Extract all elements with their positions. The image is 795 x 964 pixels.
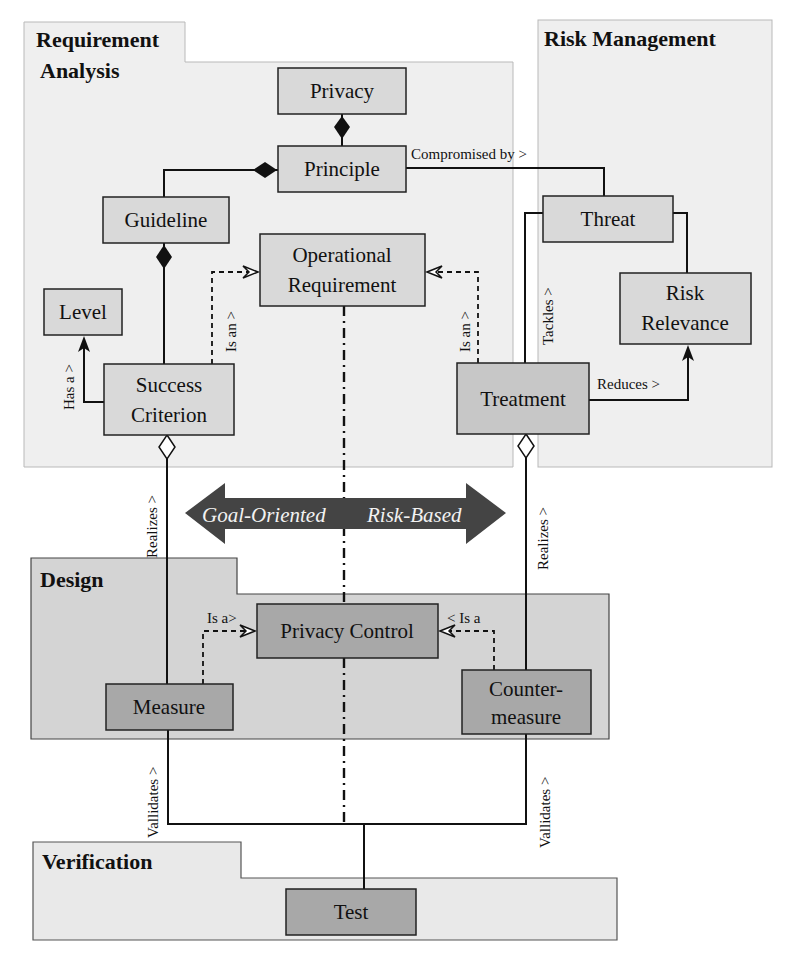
- node-label-line2: Criterion: [131, 403, 207, 427]
- package-title-requirement: Requirement: [36, 27, 160, 52]
- node-label: Privacy Control: [280, 619, 414, 643]
- edge-label-is-a-right: < Is a: [447, 610, 481, 626]
- node-label: Threat: [581, 207, 636, 231]
- node-operational-requirement[interactable]: Operational Requirement: [260, 234, 425, 306]
- node-success-criterion[interactable]: Success Criterion: [104, 364, 234, 435]
- node-label-line1: Operational: [292, 243, 391, 267]
- node-risk-relevance[interactable]: Risk Relevance: [620, 273, 751, 344]
- edge-label-tackles: Tackles >: [540, 287, 556, 345]
- spectrum-arrow: Goal-Oriented Risk-Based: [185, 483, 506, 544]
- node-label-line1: Success: [136, 373, 203, 397]
- edge-label-is-an-left: Is an >: [223, 311, 239, 352]
- node-principle[interactable]: Principle: [278, 146, 406, 192]
- package-title-design: Design: [40, 567, 104, 592]
- node-threat[interactable]: Threat: [543, 196, 673, 242]
- edge-label-reduces: Reduces >: [597, 376, 660, 392]
- node-measure[interactable]: Measure: [106, 684, 233, 730]
- node-label-line2: Requirement: [288, 273, 397, 297]
- aggregation-diamond-icon: [518, 434, 534, 458]
- edge-label-validates-right: Vallidates >: [537, 777, 553, 848]
- edge-label-is-an-right: Is an >: [457, 311, 473, 352]
- node-label: Guideline: [125, 208, 208, 232]
- edge-label-validates-left: Vallidates >: [145, 767, 161, 838]
- node-label-line1: Counter-: [489, 677, 563, 701]
- node-countermeasure[interactable]: Counter- measure: [462, 670, 591, 734]
- package-title-analysis: Analysis: [40, 58, 120, 83]
- node-label: Treatment: [480, 387, 566, 411]
- edge-label-realizes-right: Realizes >: [535, 507, 551, 570]
- risk-based-label: Risk-Based: [366, 503, 462, 527]
- node-test[interactable]: Test: [286, 889, 416, 935]
- node-privacy-control[interactable]: Privacy Control: [257, 604, 438, 658]
- edge-label-realizes-left: Realizes >: [144, 495, 160, 558]
- node-label: Privacy: [310, 79, 375, 103]
- node-label-line1: Risk: [666, 281, 705, 305]
- node-label: Test: [334, 900, 369, 924]
- node-privacy[interactable]: Privacy: [278, 68, 406, 114]
- package-title-risk-management: Risk Management: [544, 26, 716, 51]
- node-label-line2: Relevance: [641, 311, 728, 335]
- node-guideline[interactable]: Guideline: [103, 197, 229, 243]
- edge-label-has-a: Has a >: [61, 364, 77, 410]
- node-label: Measure: [133, 695, 205, 719]
- edge-label-is-a-left: Is a>: [207, 610, 237, 626]
- node-label: Level: [59, 300, 107, 324]
- node-label: Principle: [304, 157, 380, 181]
- node-treatment[interactable]: Treatment: [457, 363, 589, 434]
- edge-label-compromised-by: Compromised by >: [411, 146, 527, 162]
- goal-oriented-label: Goal-Oriented: [202, 503, 326, 527]
- node-label-line2: measure: [491, 705, 561, 729]
- node-level[interactable]: Level: [44, 289, 122, 335]
- package-title-verification: Verification: [42, 849, 152, 874]
